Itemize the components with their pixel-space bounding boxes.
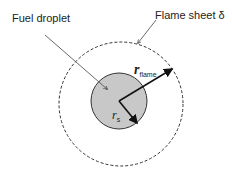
fuel-droplet-leader — [45, 35, 107, 89]
droplet-diagram — [0, 0, 232, 175]
flame-sheet-label: Flame sheet δ — [155, 9, 225, 21]
r-s-subscript: s — [117, 116, 121, 123]
fuel-droplet-label: Fuel droplet — [12, 12, 70, 24]
flame-sheet-leader — [138, 20, 156, 43]
r-s-label: rs — [112, 108, 120, 123]
r-flame-subscript: flame — [139, 71, 156, 78]
r-flame-label: rflame — [134, 62, 157, 78]
